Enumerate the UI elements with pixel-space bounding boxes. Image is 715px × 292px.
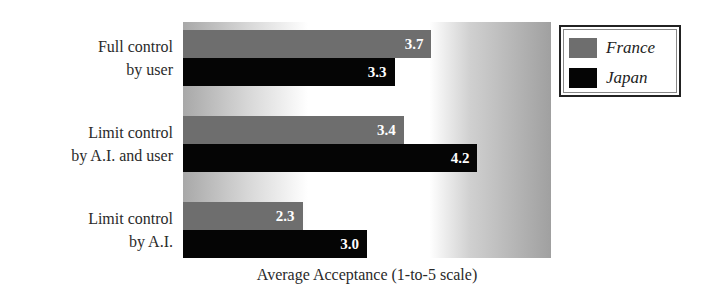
bar-value-label: 3.7 — [405, 36, 424, 53]
legend-label: France — [606, 38, 655, 58]
bar-value-label: 3.4 — [377, 122, 396, 139]
legend-item-japan: Japan — [569, 67, 648, 89]
x-axis-label: Average Acceptance (1-to-5 scale) — [183, 266, 551, 284]
bar-value-label: 2.3 — [276, 208, 295, 225]
category-label-line: Limit control — [0, 207, 173, 230]
legend-label: Japan — [606, 68, 648, 88]
bar-value-label: 3.0 — [340, 236, 359, 253]
bar-france: 3.7 — [183, 30, 431, 58]
legend-item-france: France — [569, 37, 655, 59]
category-label-line: by user — [0, 58, 173, 81]
category-label-line: Full control — [0, 35, 173, 58]
legend-swatch-japan — [569, 68, 597, 88]
bar-japan: 4.2 — [183, 144, 477, 172]
legend: France Japan — [559, 25, 681, 97]
category-label-line: Limit control — [0, 121, 173, 144]
bar-japan: 3.3 — [183, 58, 395, 86]
bar-value-label: 4.2 — [451, 150, 470, 167]
plot-area: 3.73.33.44.22.33.0 — [183, 22, 551, 258]
bar-japan: 3.0 — [183, 230, 367, 258]
category-label-full-control: Full control by user — [0, 35, 173, 81]
category-label-line: by A.I. and user — [0, 144, 173, 167]
bar-france: 3.4 — [183, 116, 404, 144]
legend-swatch-france — [569, 38, 597, 58]
category-label-limit-ai: Limit control by A.I. — [0, 207, 173, 253]
category-label-line: by A.I. — [0, 230, 173, 253]
bar-france: 2.3 — [183, 202, 303, 230]
bar-value-label: 3.3 — [368, 64, 387, 81]
category-label-limit-ai-user: Limit control by A.I. and user — [0, 121, 173, 167]
